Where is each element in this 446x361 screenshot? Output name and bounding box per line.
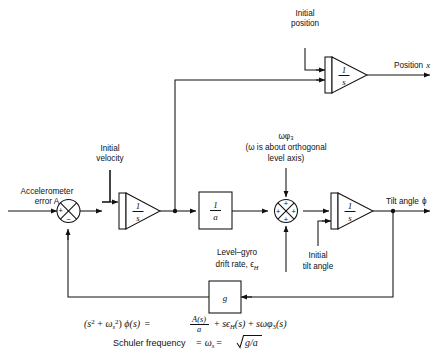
label-accelerometer-error-line2: error A (35, 197, 60, 206)
label-tilt-output: Tilt angleϕ (386, 197, 427, 206)
integrator-position: 1 s (325, 57, 367, 93)
label-position-output-text: Position (394, 61, 424, 70)
equation-radicand: g/a (245, 337, 258, 348)
label-initial-velocity-line2: velocity (96, 154, 124, 163)
block-diagram-figure: + − + + + + 1 s 1 s (0, 0, 446, 361)
label-level-gyro-line1: Level–gyro (217, 248, 258, 257)
summer-tilt-rate-sign-top: + (284, 199, 289, 208)
label-level-gyro-line2-text: drift rate, ϵ (216, 260, 255, 269)
integrator-position-numerator: 1 (342, 65, 347, 75)
label-layer: Accelerometer error A Initial velocity I… (21, 9, 431, 271)
equation-schuler-prefix: Schuler frequency (113, 338, 186, 348)
label-accelerometer-error-line1: Accelerometer (21, 187, 74, 196)
label-initial-tilt-line1: Initial (308, 251, 327, 260)
integrator-tilt-bar (331, 193, 338, 229)
label-omega-note-line1: (ω is about orthogonal (245, 143, 326, 152)
equation-transfer-tail: + sϵH(s) + sωφ3(s) (214, 318, 287, 330)
equation-fraction-numerator: A(s) (191, 315, 206, 324)
summer-tilt-rate-sign-right: + (292, 207, 297, 216)
label-omega-phi3: ωφ₃ (278, 132, 293, 141)
gain-g-label: g (223, 293, 228, 303)
label-position-output: Positionx (394, 60, 430, 70)
integrator-tilt-denominator: s (348, 213, 352, 223)
integrator-velocity-numerator: 1 (136, 201, 141, 211)
integrator-velocity: 1 s (119, 193, 160, 229)
label-initial-velocity-line1: Initial (100, 144, 119, 153)
gain-inverse-a-denominator: a (213, 212, 218, 222)
equation-schuler-omega: ω (205, 337, 212, 348)
summer-acceleration-sign-left: + (58, 206, 63, 215)
label-level-gyro-line2: drift rate, ϵH (216, 260, 259, 271)
label-tilt-output-var: ϕ (422, 197, 427, 206)
equation-schuler-omega-sub: s (212, 342, 215, 349)
wire-initial-tilt (318, 221, 329, 246)
label-initial-position-line2: position (291, 19, 320, 28)
label-tilt-output-text: Tilt angle (386, 197, 419, 206)
summer-tilt-rate-sign-bottom: + (284, 215, 289, 224)
gain-inverse-a-numerator: 1 (213, 200, 218, 210)
equation-layer: (s2 + ωs2) ϕ(s) = A(s) a + sϵH(s) + sωφ3… (84, 315, 287, 349)
label-position-output-var: x (425, 60, 430, 70)
diagram-canvas: + − + + + + 1 s 1 s (0, 0, 446, 361)
equation-schuler-body: =ωs= (196, 337, 222, 349)
equation-transfer: (s2 + ωs2) ϕ(s) = (84, 318, 151, 331)
integrator-tilt: 1 s (331, 193, 373, 229)
integrator-tilt-numerator: 1 (348, 201, 353, 211)
integrator-position-bar (325, 57, 332, 93)
label-initial-position-line1: Initial (295, 9, 314, 18)
equation-schuler-equals2: = (216, 337, 222, 348)
gain-g: g (209, 281, 241, 313)
wire-g-to-summer1 (68, 231, 209, 297)
integrator-velocity-denominator: s (136, 213, 140, 223)
summer-acceleration-sign-bottom: − (66, 215, 71, 224)
summer-acceleration: + − (57, 200, 80, 225)
equation-fraction-denominator: a (197, 325, 201, 334)
gain-inverse-a: 1 a (199, 192, 232, 229)
summer-tilt-rate: + + + + (275, 199, 298, 223)
summer-tilt-rate-sign-left: + (276, 207, 281, 216)
label-initial-tilt-line2: tilt angle (303, 262, 334, 271)
integrator-velocity-bar (119, 193, 126, 229)
wire-initial-velocity-stub (102, 170, 110, 202)
integrator-position-denominator: s (342, 77, 346, 87)
wire-initial-position (305, 48, 323, 70)
equation-schuler-equals1: = (196, 337, 202, 348)
label-level-gyro-subscript: H (253, 264, 259, 271)
label-omega-note-line2: level axis) (268, 154, 305, 163)
